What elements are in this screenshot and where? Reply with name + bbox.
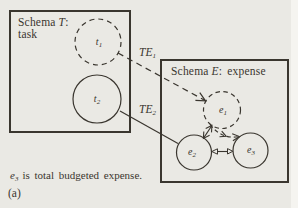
node-e1-subscript: 1	[223, 109, 227, 117]
node-t1-label: t1	[96, 37, 102, 47]
node-e2-label: e2	[188, 147, 196, 157]
te2-link-label: TE2	[139, 104, 156, 116]
expense-schema-title: SchemaE:expense	[171, 65, 266, 78]
node-t2-subscript: 2	[97, 98, 101, 106]
caption-subscript: 3	[15, 175, 19, 183]
te1-letters: TE	[139, 46, 152, 58]
te2-letters: TE	[139, 103, 152, 115]
node-t2-label: t2	[94, 94, 100, 104]
task-schema-title-colon: :	[65, 16, 68, 28]
node-e1-label: e1	[219, 105, 227, 115]
figure-page: SchemaT: task SchemaE:expense t1 t2 e1 e…	[0, 0, 298, 208]
expense-schema-title-word: Schema	[171, 65, 209, 77]
figure-caption: e3is total budgeted expense.	[10, 170, 142, 181]
te1-link-label: TE1	[139, 47, 156, 59]
e2-e1-arrowhead-bottom-icon	[203, 132, 209, 139]
node-e3-label: e3	[247, 145, 255, 155]
task-schema-subtitle-text: task	[18, 28, 37, 40]
figure-label: (a)	[8, 188, 21, 200]
task-schema-title-word: Schema	[18, 16, 56, 28]
e2-e3-right-triangle-icon	[228, 149, 233, 154]
te2-subscript: 2	[152, 109, 156, 117]
te1-arrowhead-icon	[195, 93, 205, 101]
task-schema-title: SchemaT:	[18, 16, 69, 29]
expense-schema-title-name: expense	[227, 65, 265, 77]
figure-label-text: (a)	[8, 187, 21, 199]
node-t1-subscript: 1	[99, 41, 103, 49]
node-e3-subscript: 3	[251, 149, 255, 157]
task-schema-subtitle: task	[18, 28, 37, 41]
expense-schema-title-symbol: E	[212, 65, 219, 77]
e2-e3-left-triangle-icon	[212, 149, 218, 154]
te1-subscript: 1	[152, 52, 156, 60]
te2-link-line	[120, 111, 178, 144]
expense-schema-title-colon: :	[219, 65, 222, 77]
node-e2-subscript: 2	[192, 151, 196, 159]
caption-text: is total budgeted expense.	[22, 169, 142, 181]
